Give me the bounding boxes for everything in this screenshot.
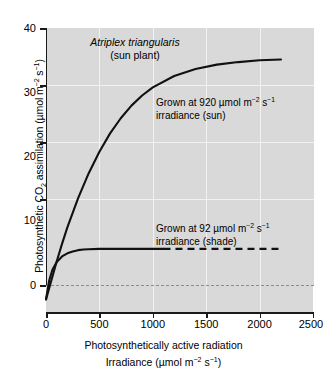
annotation-shade-sup2: −1 [262,222,270,229]
chart-title-subtitle: (sun plant) [60,49,210,62]
annotation-sun-prefix: Grown at 920 µmol m [156,97,252,108]
annotation-sun-sup2: −1 [267,96,275,103]
annotation-shade: Grown at 92 µmol m−2 s−1 irradiance (sha… [156,222,270,248]
x-axis-title-sup1: −2 [193,356,201,364]
annotation-shade-line1: Grown at 92 µmol m−2 s−1 [156,222,270,235]
x-tick-label-2500: 2500 [291,318,327,330]
x-axis-title-prefix: Irradiance (µmol m [106,356,194,368]
x-axis-title-mid: s [202,356,210,368]
x-tick-label-0: 0 [26,318,66,330]
annotation-shade-mid: s [254,223,262,234]
annotation-sun-sup1: −2 [252,96,260,103]
chart-title: Atriplex triangularis (sun plant) [60,36,210,62]
annotation-sun: Grown at 920 µmol m−2 s−1 irradiance (su… [156,96,275,122]
x-tick-label-1500: 1500 [186,318,226,330]
annotation-shade-prefix: Grown at 92 µmol m [156,223,246,234]
photosynthesis-irradiance-chart: Photosynthetic CO2 assimilation (µmol m−… [0,0,327,382]
x-axis-title-suffix: ) [218,356,222,368]
curve-shade-solid [46,249,163,299]
annotation-sun-line2: irradiance (sun) [156,109,275,122]
x-tick-label-2000: 2000 [240,318,280,330]
x-axis-title-line1: Photosynthetically active radiation [0,339,327,351]
x-axis-title-line2: Irradiance (µmol m−2 s−1) [0,356,327,368]
annotation-shade-sup1: −2 [246,222,254,229]
annotation-shade-line2: irradiance (shade) [156,235,270,248]
chart-title-species: Atriplex triangularis [60,36,210,49]
x-axis-title-sup2: −1 [210,356,218,364]
annotation-sun-line1: Grown at 920 µmol m−2 s−1 [156,96,275,109]
x-tick-label-500: 500 [79,318,119,330]
x-tick-label-1000: 1000 [133,318,173,330]
